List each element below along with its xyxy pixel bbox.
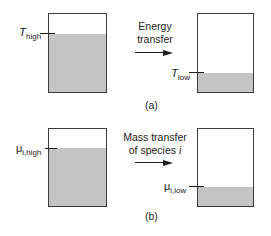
level-tick-high xyxy=(45,148,57,149)
container-low-temperature xyxy=(197,13,254,93)
energy-transfer-arrow-head-icon xyxy=(163,50,173,56)
fill-level-high xyxy=(49,34,106,92)
container-high-chemical-potential xyxy=(48,128,107,207)
fill-level-low xyxy=(198,187,253,206)
container-high-temperature xyxy=(48,13,107,93)
label-mu-i-high: μi,high xyxy=(16,143,41,157)
energy-transfer-arrow-shaft xyxy=(135,52,165,53)
mass-transfer-label: Mass transfer of species i xyxy=(119,131,191,156)
level-tick-low xyxy=(189,186,204,187)
mass-transfer-arrow-head-icon xyxy=(163,160,173,166)
label-mu-i-low: μi,low xyxy=(164,181,186,195)
fill-level-low xyxy=(198,73,253,92)
level-tick-low xyxy=(189,72,204,73)
caption-a: (a) xyxy=(145,99,158,111)
label-t-low: Tlow xyxy=(171,68,190,82)
energy-transfer-label: Energy transfer xyxy=(132,20,178,45)
level-tick-high xyxy=(40,33,55,34)
container-low-chemical-potential xyxy=(197,128,254,207)
fill-level-high xyxy=(49,148,106,206)
mass-transfer-arrow-shaft xyxy=(135,162,165,163)
label-t-high: Thigh xyxy=(19,27,41,41)
caption-b: (b) xyxy=(145,210,158,222)
